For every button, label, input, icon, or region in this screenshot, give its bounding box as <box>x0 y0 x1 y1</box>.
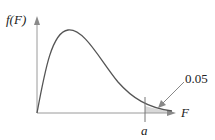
leader-line <box>162 82 184 104</box>
x-axis-label: F <box>181 105 189 121</box>
y-axis-arrow-icon <box>34 16 40 25</box>
y-axis-label: f(F) <box>6 12 26 28</box>
tail-area-label: 0.05 <box>185 71 208 87</box>
density-curve <box>37 30 172 113</box>
critical-value-label: a <box>141 123 148 139</box>
